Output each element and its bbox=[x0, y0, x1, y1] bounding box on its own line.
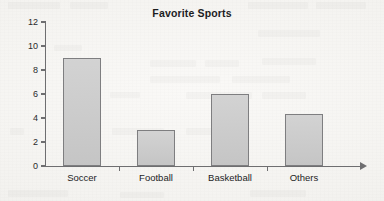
y-tick-mark bbox=[41, 93, 45, 94]
y-axis-line bbox=[45, 21, 46, 167]
x-tick-mark bbox=[193, 167, 194, 171]
y-tick-mark bbox=[41, 21, 45, 22]
y-tick-mark bbox=[41, 69, 45, 70]
bar-football bbox=[137, 130, 175, 166]
x-tick-mark bbox=[267, 167, 268, 171]
bar-chart-figure: Favorite Sports 024681012 SoccerFootball… bbox=[0, 0, 384, 201]
y-tick-mark bbox=[41, 141, 45, 142]
y-tick-label: 8 bbox=[10, 65, 38, 75]
x-tick-label-football: Football bbox=[119, 172, 193, 183]
y-tick-label: 6 bbox=[10, 89, 38, 99]
bar-others bbox=[285, 114, 323, 166]
y-tick-label: 10 bbox=[10, 41, 38, 51]
y-tick-label: 12 bbox=[10, 17, 38, 27]
y-tick-label: 2 bbox=[10, 137, 38, 147]
y-tick-mark bbox=[41, 117, 45, 118]
x-tick-label-soccer: Soccer bbox=[45, 172, 119, 183]
x-tick-mark bbox=[119, 167, 120, 171]
x-axis-arrow-icon bbox=[360, 162, 367, 170]
y-tick-label: 4 bbox=[10, 113, 38, 123]
plot-area: 024681012 SoccerFootballBasketballOthers bbox=[0, 0, 384, 201]
x-tick-label-others: Others bbox=[267, 172, 341, 183]
bar-basketball bbox=[211, 94, 249, 166]
y-tick-mark bbox=[41, 45, 45, 46]
y-tick-label: 0 bbox=[10, 161, 38, 171]
bar-soccer bbox=[63, 58, 101, 166]
x-tick-label-basketball: Basketball bbox=[193, 172, 267, 183]
y-tick-mark bbox=[41, 165, 45, 166]
